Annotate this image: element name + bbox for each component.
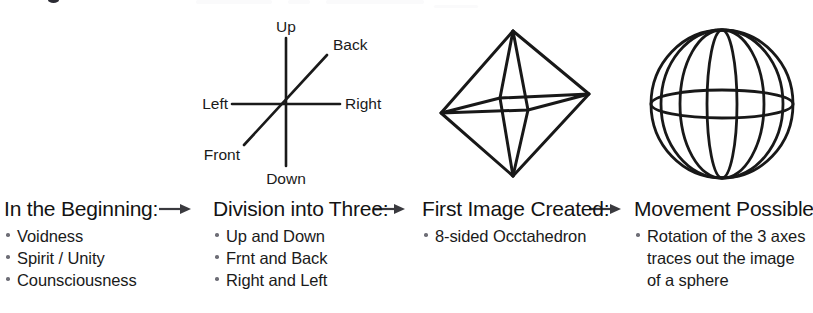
octahedron-outline [441,31,589,176]
column-heading: Division into Three: [213,196,373,221]
stage-column-movement-possible: Movement Possible: Rotation of the 3 axe… [634,196,813,291]
title-ghost-2 [288,0,310,4]
three-axes-diagram: Up Down Left Right Back Front [186,14,386,196]
bullet-text: Counsciousness [17,271,137,289]
axis-label-down: Down [266,170,306,187]
list-item: Counsciousness [4,269,154,291]
title-ghost-4 [434,5,478,8]
cropped-title-remnant [0,0,813,10]
bullet-dot-icon [6,255,10,259]
bullet-text: Frnt and Back [226,249,327,267]
bullet-text: Up and Down [226,227,325,245]
bullet-text: Spirit / Unity [17,249,105,267]
stage-column-first-image-created: First Image Created: 8-sided Occtahedron [422,196,592,247]
bullet-text-line3: of a sphere [647,269,813,291]
list-item: Rotation of the 3 axes traces out the im… [634,225,813,291]
sphere-meridian-mid [680,30,764,178]
column-bullet-list: Voidness Spirit / Unity Counsciousness [4,225,154,291]
column-heading: Movement Possible: [634,196,813,221]
bullet-dot-icon [215,233,219,237]
diagram-row: Up Down Left Right Back Front [0,14,813,196]
column-bullet-list: Rotation of the 3 axes traces out the im… [634,225,813,291]
list-item: Frnt and Back [213,247,373,269]
title-ghost-3 [326,0,424,4]
list-item: Up and Down [213,225,373,247]
list-item: Right and Left [213,269,373,291]
title-ghost-1 [196,0,272,4]
bullet-dot-icon [636,233,640,237]
axis-label-left: Left [202,95,229,112]
bullet-text-line2: traces out the image [647,247,813,269]
list-item: Voidness [4,225,154,247]
stage-column-in-the-beginning: In the Beginning: Voidness Spirit / Unit… [4,196,154,291]
sphere-meridian-center [707,30,737,178]
column-bullet-list: 8-sided Occtahedron [422,225,592,247]
axis-label-up: Up [276,18,296,35]
list-item: 8-sided Occtahedron [422,225,592,247]
sphere-diagram [638,14,813,196]
bullet-text: 8-sided Occtahedron [435,227,586,245]
stage-columns: In the Beginning: Voidness Spirit / Unit… [0,196,813,313]
bullet-dot-icon [6,233,10,237]
sacred-geometry-figure: Up Down Left Right Back Front [0,0,813,313]
bullet-text: Right and Left [226,271,327,289]
bullet-dot-icon [6,277,10,281]
octahedron-diagram [420,14,610,196]
column-heading: First Image Created: [422,196,592,221]
stage-column-division-into-three: Division into Three: Up and Down Frnt an… [213,196,373,291]
octahedron-equator-diamond [441,94,589,113]
column-bullet-list: Up and Down Frnt and Back Right and Left [213,225,373,291]
bullet-text: Rotation of the 3 axes [647,227,805,245]
sphere-outline [651,30,793,178]
octahedron-edge-top-back [500,31,513,98]
bullet-text: Voidness [17,227,83,245]
bullet-dot-icon [215,277,219,281]
column-heading: In the Beginning: [4,196,154,221]
sphere-equator [651,90,793,118]
title-ink-blob [48,0,59,3]
bullet-dot-icon [424,233,428,237]
bullet-dot-icon [215,255,219,259]
axis-label-front: Front [204,146,241,163]
list-item: Spirit / Unity [4,247,154,269]
axis-label-back: Back [333,36,368,53]
axis-label-right: Right [345,95,382,112]
